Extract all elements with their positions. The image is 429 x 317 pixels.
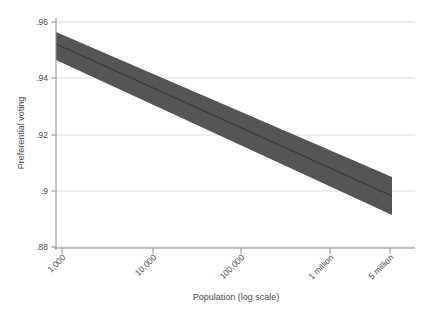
x-tick-label: 1 million [306,252,335,281]
chart-plot: .96 .94 .92 .9 .88 1,000 10,000 100,000 … [0,0,429,317]
y-tick-label: .92 [36,130,48,140]
chart-container: .96 .94 .92 .9 .88 1,000 10,000 100,000 … [0,0,429,317]
y-axis-title: Preferential voting [16,97,26,170]
y-axis-tick-labels: .96 .94 .92 .9 .88 [36,17,48,252]
y-axis-ticks [51,22,56,247]
x-axis-title: Population (log scale) [193,292,280,302]
y-tick-label: .88 [36,242,48,252]
y-tick-label: .9 [41,186,48,196]
x-tick-label: 5 million [366,252,395,281]
x-axis-ticks [62,248,390,254]
y-tick-label: .94 [36,73,48,83]
x-axis-tick-labels: 1,000 10,000 100,000 1 million 5 million [45,252,395,281]
x-tick-label: 10,000 [133,252,159,278]
x-tick-label: 100,000 [218,252,247,281]
y-tick-label: .96 [36,17,48,27]
x-tick-label: 1,000 [45,252,67,274]
